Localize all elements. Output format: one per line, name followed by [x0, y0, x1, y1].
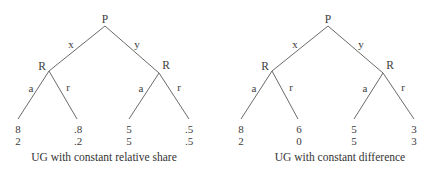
payoff-responder: 3	[411, 136, 417, 147]
payoff-proposer: 3	[411, 124, 417, 135]
payoff-proposer: 8	[238, 124, 244, 135]
edge-r-right-2	[383, 73, 414, 119]
edge-label-accept: a	[29, 83, 34, 94]
edge-a-right-2	[354, 73, 383, 119]
tree-left-edges	[18, 26, 189, 119]
payoff-responder: 2	[15, 136, 21, 147]
payoff-responder: 0	[296, 136, 302, 147]
payoff-proposer: 6	[296, 124, 302, 135]
proposer-node-label: P	[325, 14, 331, 25]
edge-label-reject: r	[66, 82, 70, 93]
edge-label-accept: a	[139, 83, 144, 94]
diagram-caption: UG with constant difference	[275, 151, 405, 163]
payoff-proposer: 5	[126, 124, 132, 135]
payoff-proposer: .8	[74, 124, 82, 135]
tree-lines	[0, 0, 434, 170]
payoff-proposer: 8	[15, 124, 21, 135]
payoff-responder: .5	[185, 136, 193, 147]
edge-a-right-1	[241, 71, 272, 119]
payoff-responder: .2	[74, 136, 82, 147]
edge-y-right	[328, 26, 383, 73]
payoff-responder: 5	[351, 136, 357, 147]
edge-y-left	[105, 26, 159, 73]
edge-x-left	[49, 26, 105, 71]
figure: P x y R R a r a r 8 2 .8 .2 5 5 .5 .5 UG…	[0, 0, 434, 170]
edge-r-left-1	[49, 71, 77, 119]
edge-label-reject: r	[401, 82, 405, 93]
payoff-proposer: .5	[185, 124, 193, 135]
edge-label-x: x	[292, 39, 298, 50]
diagram-caption: UG with constant relative share	[31, 151, 177, 163]
edge-a-left-1	[18, 71, 49, 119]
responder-node-label: R	[261, 61, 269, 72]
edge-r-left-2	[159, 73, 189, 119]
edge-label-accept: a	[252, 83, 257, 94]
edge-label-reject: r	[289, 82, 293, 93]
edge-label-x: x	[68, 39, 74, 50]
edge-label-accept: a	[363, 83, 368, 94]
payoff-responder: 5	[126, 136, 132, 147]
tree-right-edges	[241, 26, 414, 119]
responder-node-label: R	[386, 60, 394, 71]
edge-label-y: y	[134, 39, 140, 50]
payoff-responder: 2	[238, 136, 244, 147]
proposer-node-label: P	[102, 14, 108, 25]
edge-label-y: y	[358, 39, 364, 50]
edge-label-reject: r	[177, 82, 181, 93]
edge-a-left-2	[129, 73, 159, 119]
responder-node-label: R	[162, 60, 170, 71]
edge-r-right-1	[272, 71, 298, 119]
responder-node-label: R	[38, 61, 46, 72]
edge-x-right	[272, 26, 328, 71]
payoff-proposer: 5	[351, 124, 357, 135]
